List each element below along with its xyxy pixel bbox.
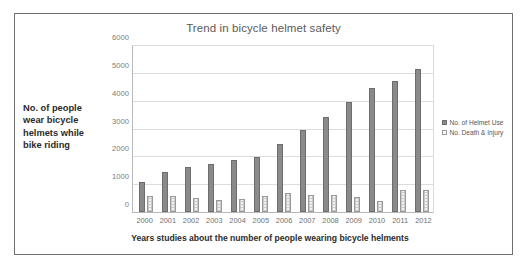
y-axis-tick-label: 2000 — [112, 144, 129, 153]
bar-2008-death-injury[interactable] — [331, 195, 337, 212]
legend: No. of Helmet UseNo. Death & Injury — [442, 119, 524, 139]
chart-title: Trend in bicycle helmet safety — [15, 22, 512, 34]
bar-2012-death-injury[interactable] — [423, 190, 429, 212]
x-axis-line — [133, 212, 433, 213]
bar-group — [387, 46, 410, 212]
bar-group — [364, 46, 387, 212]
bar-2009-helmet-use[interactable] — [346, 102, 352, 212]
legend-item-label: No. Death & Injury — [450, 129, 504, 136]
x-axis-tick-label: 2011 — [389, 216, 412, 225]
legend-item[interactable]: No. of Helmet Use — [442, 119, 524, 126]
x-axis-tick-label: 2005 — [249, 216, 272, 225]
bar-2004-death-injury[interactable] — [239, 199, 245, 212]
bar-2001-helmet-use[interactable] — [162, 172, 168, 212]
bar-2011-death-injury[interactable] — [400, 190, 406, 212]
bar-group — [410, 46, 433, 212]
bar-2005-death-injury[interactable] — [262, 196, 268, 212]
legend-item-label: No. of Helmet Use — [450, 119, 504, 126]
outlined-square-icon — [442, 130, 447, 135]
bar-2002-death-injury[interactable] — [193, 198, 199, 212]
y-axis-tick-label: 1000 — [112, 172, 129, 181]
y-axis-tick-label: 6000 — [112, 33, 129, 42]
bar-2008-helmet-use[interactable] — [323, 117, 329, 212]
bar-2001-death-injury[interactable] — [170, 196, 176, 212]
filled-square-icon — [442, 120, 447, 125]
y-axis-tick-label: 0 — [125, 200, 129, 209]
figure-frame: Trend in bicycle helmet safety No. of pe… — [14, 13, 513, 255]
bar-2012-helmet-use[interactable] — [415, 69, 421, 212]
bar-2011-helmet-use[interactable] — [392, 81, 398, 212]
x-axis-tick-label: 2012 — [412, 216, 435, 225]
x-axis-tick-label: 2003 — [203, 216, 226, 225]
bar-group — [157, 46, 180, 212]
y-axis-tick-label: 3000 — [112, 116, 129, 125]
x-axis-tick-labels: 2000200120022003200420052006200720082009… — [133, 216, 435, 225]
x-axis-tick-label: 2004 — [226, 216, 249, 225]
bar-2006-helmet-use[interactable] — [277, 144, 283, 212]
x-axis-tick-label: 2008 — [319, 216, 342, 225]
x-axis-tick-label: 2009 — [342, 216, 365, 225]
bar-group — [180, 46, 203, 212]
bar-2010-helmet-use[interactable] — [369, 88, 375, 212]
bar-2003-helmet-use[interactable] — [208, 164, 214, 212]
bar-2005-helmet-use[interactable] — [254, 157, 260, 212]
bar-2000-death-injury[interactable] — [147, 196, 153, 212]
bar-2002-helmet-use[interactable] — [185, 167, 191, 212]
bar-group — [295, 46, 318, 212]
bar-2010-death-injury[interactable] — [377, 201, 383, 212]
x-axis-caption: Years studies about the number of people… — [55, 233, 485, 243]
bar-2007-helmet-use[interactable] — [300, 130, 306, 212]
bar-2004-helmet-use[interactable] — [231, 160, 237, 212]
y-axis-tick-label: 5000 — [112, 60, 129, 69]
plot-area: 0100020003000400050006000 — [132, 45, 434, 213]
bar-group — [134, 46, 157, 212]
bar-group — [226, 46, 249, 212]
bars-layer — [134, 46, 433, 212]
bar-group — [318, 46, 341, 212]
bar-2003-death-injury[interactable] — [216, 200, 222, 212]
bar-group — [203, 46, 226, 212]
y-axis-tick-label: 4000 — [112, 88, 129, 97]
bar-group — [341, 46, 364, 212]
bar-2009-death-injury[interactable] — [354, 197, 360, 212]
bar-2007-death-injury[interactable] — [308, 195, 314, 212]
x-axis-tick-label: 2001 — [156, 216, 179, 225]
y-axis-caption: No. of people wear bicycle helmets while… — [23, 102, 101, 152]
bar-2006-death-injury[interactable] — [285, 193, 291, 212]
bar-2000-helmet-use[interactable] — [139, 182, 145, 212]
x-axis-tick-label: 2007 — [296, 216, 319, 225]
x-axis-tick-label: 2002 — [179, 216, 202, 225]
x-axis-tick-label: 2010 — [365, 216, 388, 225]
bar-group — [272, 46, 295, 212]
bar-group — [249, 46, 272, 212]
x-axis-tick-label: 2006 — [272, 216, 295, 225]
legend-item[interactable]: No. Death & Injury — [442, 129, 524, 136]
x-axis-tick-label: 2000 — [133, 216, 156, 225]
